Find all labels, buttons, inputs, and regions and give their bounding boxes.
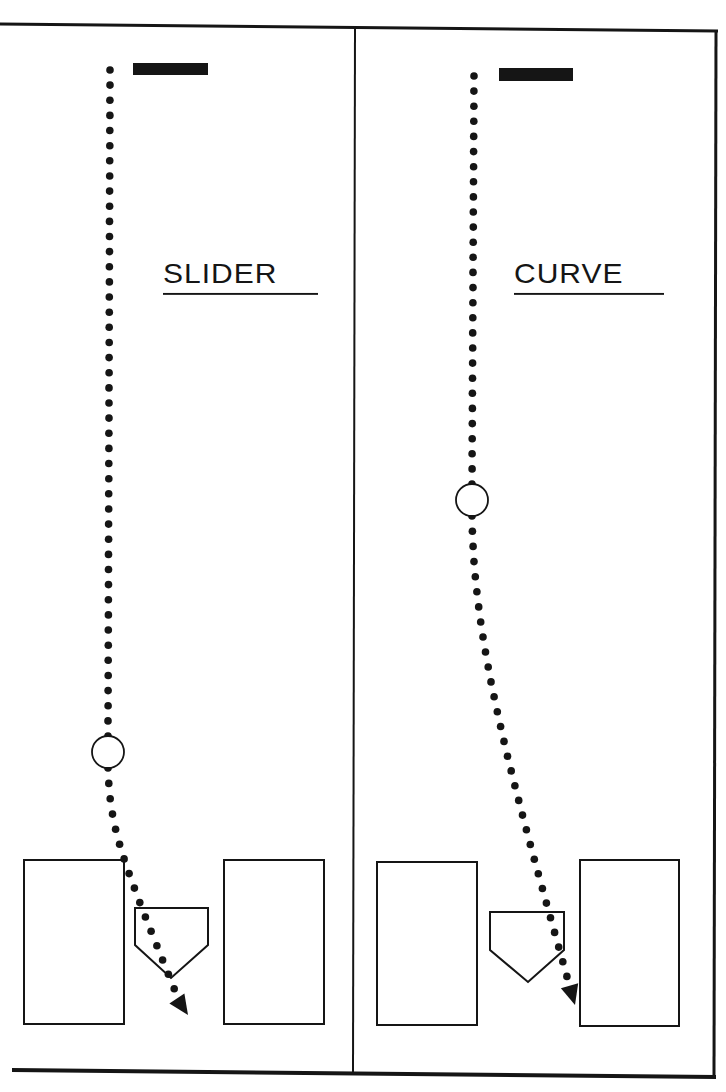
trajectory-dot [165, 971, 173, 979]
trajectory-dot [125, 870, 133, 878]
trajectory-dot [106, 157, 114, 165]
trajectory-dot [105, 430, 113, 438]
trajectory-dot [104, 687, 112, 695]
trajectory-dot [472, 573, 480, 581]
trajectory-dot [469, 390, 477, 398]
trajectory-dot [105, 641, 113, 649]
trajectory-dot [563, 973, 571, 981]
trajectory-dot [106, 127, 114, 135]
trajectory-dot [106, 218, 114, 226]
break-point-circle [92, 736, 124, 768]
trajectory-dot [469, 299, 477, 307]
trajectory-dot [469, 405, 477, 413]
trajectory-dot [473, 588, 481, 596]
trajectory-dot [131, 884, 139, 892]
trajectory-dot [469, 238, 477, 246]
trajectory-dot [106, 795, 114, 803]
trajectory-dot [470, 102, 478, 110]
trajectory-dot [104, 657, 112, 665]
arrow-head-icon [561, 983, 578, 1005]
trajectory-dot [106, 233, 114, 241]
trajectory-dot [106, 263, 114, 271]
trajectory-dot [511, 782, 519, 790]
trajectory-dot [470, 558, 478, 566]
trajectory-dot [482, 648, 490, 656]
panel-curve [377, 68, 679, 1026]
trajectory-dot [120, 855, 128, 863]
trajectory-dot [142, 913, 150, 921]
trajectory-dot [106, 308, 114, 316]
trajectory-dot [106, 66, 114, 74]
trajectory-dot [106, 172, 114, 180]
trajectory-guide [108, 70, 180, 1003]
break-point-circle [456, 484, 488, 516]
pitch-diagram [0, 0, 726, 1092]
trajectory-dot [515, 797, 523, 805]
trajectory-dot [504, 752, 512, 760]
trajectory-dot [470, 163, 478, 171]
trajectory-dot [105, 611, 113, 619]
trajectory-dot [468, 450, 476, 458]
trajectory-dot [470, 148, 478, 156]
trajectory-dot [116, 840, 124, 848]
trajectory-dot [469, 344, 477, 352]
label-underline [163, 293, 318, 295]
trajectory-dot [105, 414, 113, 422]
trajectory-dot [105, 596, 113, 604]
trajectory-dot [105, 324, 113, 332]
trajectory-dot [469, 269, 477, 277]
trajectory-dot [106, 142, 114, 150]
panel-slider [24, 63, 324, 1024]
trajectory-dot [470, 193, 478, 201]
trajectory-dot [105, 780, 113, 788]
trajectory-dot [104, 717, 112, 725]
trajectory-dot [106, 202, 114, 210]
trajectory-dot [105, 535, 113, 543]
trajectory-dot [469, 374, 477, 382]
trajectory-dot [507, 767, 515, 775]
trajectory-dot [547, 914, 555, 922]
trajectory-dot [136, 899, 144, 907]
frame-bottom [12, 1070, 716, 1077]
trajectory-dot [469, 527, 477, 535]
trajectory-dot [469, 314, 477, 322]
trajectory-dot [475, 603, 483, 611]
trajectory-dot [559, 958, 567, 966]
batters-box-right [580, 860, 679, 1026]
trajectory-dot [105, 475, 113, 483]
trajectory-dot [147, 928, 155, 936]
trajectory-dot [109, 810, 117, 818]
trajectory-dot [104, 702, 112, 710]
trajectory-dot [106, 293, 114, 301]
frame-top [0, 24, 718, 31]
trajectory-dot [555, 943, 563, 951]
trajectory-dot [469, 329, 477, 337]
trajectory-dot [539, 885, 547, 893]
trajectory-dot [469, 284, 477, 292]
trajectory-dot [487, 678, 495, 686]
trajectory-dot [519, 811, 527, 819]
trajectory-dot [105, 445, 113, 453]
trajectory-dot [469, 420, 477, 428]
trajectory-dot [105, 460, 113, 468]
trajectory-dot [469, 253, 477, 261]
pitch-label-curve: CURVE [514, 259, 623, 288]
trajectory-dot [490, 693, 498, 701]
trajectory-dot [106, 97, 114, 105]
trajectory-dot [105, 520, 113, 528]
trajectory-dot [500, 738, 508, 746]
trajectory-dot [105, 551, 113, 559]
trajectory-dot [551, 929, 559, 937]
label-underline [514, 293, 664, 295]
batters-box-left [24, 860, 124, 1024]
trajectory-dot [477, 618, 485, 626]
trajectory-dot [479, 633, 487, 641]
trajectory-dot [469, 543, 477, 551]
trajectory-dot [112, 825, 120, 833]
trajectory-dot [159, 956, 167, 964]
trajectory-dot [470, 133, 478, 141]
trajectory-dot [497, 723, 505, 731]
trajectory-dot [527, 841, 535, 849]
trajectory-dot [470, 208, 478, 216]
trajectory-dot [105, 505, 113, 513]
